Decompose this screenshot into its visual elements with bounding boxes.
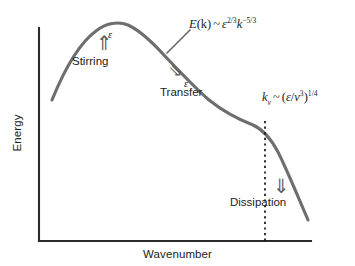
spectrum-formula-k-exponent: −5/3: [242, 16, 256, 25]
kv-formula-relation: ~: [271, 90, 282, 104]
transfer-label: Transfer: [160, 86, 202, 98]
x-axis-label: Wavenumber: [0, 248, 355, 260]
y-axis-label: Energy: [11, 83, 23, 183]
stirring-label: Stirring: [72, 55, 108, 67]
dissipation-label: Dissipation: [230, 196, 286, 208]
spectrum-formula-lhs: E: [189, 17, 197, 31]
energy-spectrum-curve: [52, 23, 308, 220]
energy-spectrum-figure: Energy Wavenumber ⇑ ε Stirring ⇑ ε Trans…: [0, 0, 355, 266]
down-double-arrow-icon: ⇓: [273, 176, 290, 196]
stirring-flux-symbol: ε: [108, 29, 112, 40]
spectrum-formula: E(k)~ε2/3k−5/3: [189, 17, 256, 32]
kolmogorov-wavenumber-formula: kν~(ε/ν3)1/4: [262, 90, 318, 105]
plot-canvas: [0, 0, 355, 266]
spectrum-formula-relation: ~: [211, 17, 222, 31]
spectrum-formula-arg: (k): [197, 17, 212, 31]
kv-formula-group-exponent: 1/4: [308, 89, 318, 98]
spectrum-leader-line: [167, 30, 190, 53]
spectrum-formula-eps-exponent: 2/3: [227, 16, 237, 25]
